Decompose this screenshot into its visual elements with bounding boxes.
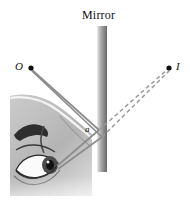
angle-label: a (85, 124, 90, 134)
image-point-dot (166, 65, 171, 70)
illustration-fade (0, 176, 100, 214)
eye-highlight (47, 160, 50, 163)
mirror-bar (97, 26, 107, 172)
face-illustration (0, 94, 100, 214)
virtual-image-rays (99, 69, 169, 137)
figure-canvas: Mirror O I a (0, 0, 190, 214)
mirror-label: Mirror (82, 8, 115, 23)
image-point-label: I (176, 60, 180, 72)
object-point-label: O (15, 60, 23, 72)
ray-diagram-svg (0, 0, 190, 214)
dashed-ray-1 (99, 69, 168, 130)
object-point-dot (28, 65, 33, 70)
dashed-ray-2 (102, 71, 169, 137)
